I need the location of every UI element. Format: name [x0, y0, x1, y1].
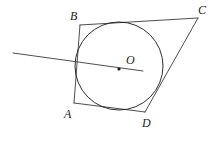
vertex-label-A: A [64, 108, 71, 120]
side-CD [145, 18, 198, 112]
center-label-O: O [126, 54, 135, 66]
center-dot-icon [117, 67, 120, 70]
vertex-label-D: D [142, 117, 151, 129]
figure-canvas [0, 0, 219, 141]
vertex-label-C: C [198, 4, 206, 16]
side-BC [80, 18, 198, 25]
inscribed-circle [75, 22, 163, 110]
vertex-label-B: B [70, 10, 77, 22]
quadrilateral-sides [74, 18, 198, 112]
geometry-figure: B C D A O [0, 0, 219, 141]
